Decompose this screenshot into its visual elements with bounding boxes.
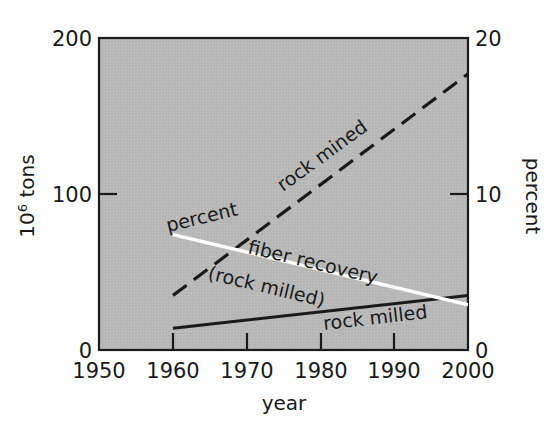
y-left-tick-100: 100 [52, 183, 92, 207]
y-left-tick-200: 200 [52, 27, 92, 51]
y-axis-left-title: 106 tons [15, 154, 39, 237]
chart-figure: 200 100 0 20 10 0 1950 1960 1970 1980 19… [0, 0, 548, 428]
x-tick-1960: 1960 [146, 359, 199, 383]
x-tick-1970: 1970 [220, 359, 273, 383]
x-tick-1980: 1980 [294, 359, 347, 383]
x-tick-1950: 1950 [72, 359, 125, 383]
y-right-tick-10: 10 [475, 183, 502, 207]
y-axis-right-title: percent [521, 158, 545, 235]
x-axis-title: year [262, 391, 307, 415]
y-right-tick-20: 20 [475, 27, 502, 51]
chart-canvas: 200 100 0 20 10 0 1950 1960 1970 1980 19… [0, 0, 548, 428]
svg-text:106 tons: 106 tons [15, 154, 39, 237]
x-tick-1990: 1990 [367, 359, 420, 383]
svg-text:percent: percent [521, 158, 545, 235]
x-tick-2000: 2000 [441, 359, 494, 383]
